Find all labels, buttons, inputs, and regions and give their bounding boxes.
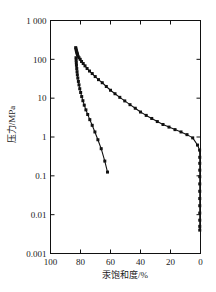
tick-labels: 1008060402001 0001001010.10.010.001 — [26, 16, 203, 267]
svg-text:10: 10 — [38, 93, 48, 103]
svg-text:1 000: 1 000 — [26, 16, 47, 26]
svg-text:1: 1 — [42, 132, 47, 142]
svg-text:80: 80 — [76, 257, 86, 267]
axis-frame — [51, 21, 201, 254]
svg-text:0.1: 0.1 — [35, 171, 46, 181]
svg-text:0.01: 0.01 — [31, 210, 47, 220]
svg-text:0.001: 0.001 — [26, 249, 46, 259]
svg-text:40: 40 — [136, 257, 146, 267]
svg-text:0: 0 — [198, 257, 203, 267]
capillary-pressure-chart: 1008060402001 0001001010.10.010.001 压力/M… — [0, 0, 216, 292]
chart-plot-area: 1008060402001 0001001010.10.010.001 — [0, 0, 216, 292]
x-axis-title: 汞饱和度/% — [50, 268, 200, 281]
svg-text:60: 60 — [106, 257, 116, 267]
svg-text:100: 100 — [33, 55, 47, 65]
data-series-markers — [74, 46, 201, 231]
svg-text:20: 20 — [166, 257, 176, 267]
y-axis-title: 压力/MPa — [5, 92, 18, 158]
tick-marks — [51, 21, 201, 254]
data-series-lines — [76, 48, 200, 230]
